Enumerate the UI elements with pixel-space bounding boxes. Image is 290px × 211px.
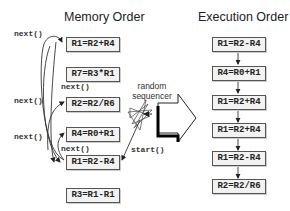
execution-instruction-5: R1=R2-R4 [212,151,266,166]
memory-instruction-6: R3=R1-R1 [66,188,120,203]
memory-instruction-4: R4=R0+R1 [66,127,120,142]
start-label: start() [131,145,165,154]
random-sequencer-line-2: sequencer [130,91,174,101]
next-label-5: next() [61,144,90,153]
random-sequencer-icon [128,100,152,130]
next-label-1: next() [14,29,43,38]
random-sequencer-label: random sequencer [130,81,174,101]
next-label-3: next() [14,96,43,105]
next-label-2: next() [61,82,90,91]
execution-instruction-2: R4=R0+R1 [212,66,266,81]
execution-instruction-4: R1=R2+R4 [212,123,266,138]
execution-instruction-6: R2=R2/R6 [212,179,266,194]
execution-order-title: Execution Order [198,10,288,24]
memory-instruction-2: R7=R3*R1 [66,67,120,82]
memory-vs-execution-order-diagram: Memory Order Execution Order R1=R2+R4 R7… [0,0,290,211]
execution-instruction-1: R1=R2-R4 [212,37,266,52]
execution-instruction-3: R1=R2+R4 [212,95,266,110]
memory-instruction-3: R2=R2/R6 [66,97,120,112]
memory-instruction-5: R1=R2-R4 [66,155,120,170]
memory-order-title: Memory Order [64,10,145,24]
memory-instruction-1: R1=R2+R4 [66,37,120,52]
next-label-4: next() [14,132,43,141]
random-sequencer-line-1: random [130,81,174,91]
